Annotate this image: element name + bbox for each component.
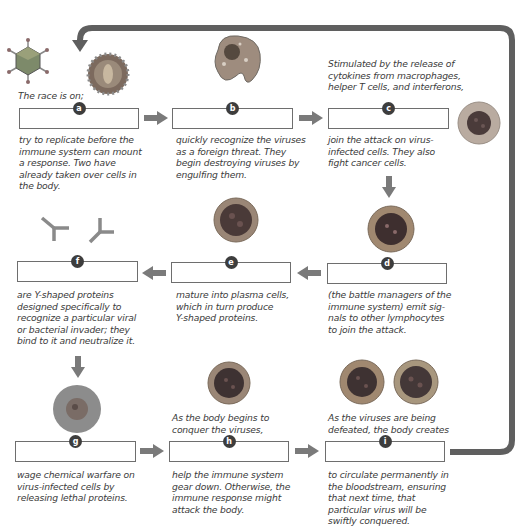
step-i-text-above: As the viruses are beingdefeated, the bo… [328,412,488,435]
memory-cell-icon [338,358,386,406]
arrow-right-icon [140,444,164,458]
suppressor-t-cell-icon [206,360,252,406]
step-g-badge: g [69,435,82,448]
step-e-answer-box[interactable]: e [171,262,291,283]
arrow-right-icon [295,444,319,458]
step-i-answer-box[interactable]: i [325,441,445,462]
memory-cell-icon [392,358,440,406]
step-c-text-above: Stimulated by the release ofcytokines fr… [328,58,488,93]
arrow-left-icon [142,266,166,280]
step-d-answer-box[interactable]: d [327,263,447,284]
step-i-badge: i [379,435,392,448]
step-e-badge: e [225,256,238,269]
step-a-answer-box[interactable]: a [19,108,139,129]
step-c-badge: c [382,102,395,115]
step-e-text-below: mature into plasma cells,which in turn p… [176,289,326,324]
step-d-text-below: (the battle managers of theimmune system… [328,289,488,335]
step-b-badge: b [226,102,239,115]
antibody-icon [88,216,118,246]
step-h-badge: h [223,435,236,448]
virus-icon [6,38,50,84]
arrow-down-icon [382,176,396,198]
arrow-down-icon [71,356,85,378]
step-f-badge: f [71,255,84,268]
step-h-answer-box[interactable]: h [169,441,289,462]
arrow-right-icon [144,111,168,125]
step-a-text-above: The race is on; [18,90,84,102]
step-c-answer-box[interactable]: c [328,108,449,129]
macrophage-icon [208,30,264,86]
step-c-text-below: join the attack on virus-infected cells.… [328,134,478,169]
arrow-right-icon [299,111,323,125]
b-cell-icon [212,196,260,244]
step-a-text-below: try to replicate before theimmune system… [19,134,169,192]
step-f-text-below: are Y-shaped proteinsdesigned specifical… [17,289,167,347]
step-h-text-above: As the body begins toconquer the viruses… [172,412,322,435]
step-h-text-below: help the immune systemgear down. Otherwi… [172,469,332,515]
step-b-text-below: quickly recognize the virusesas a foreig… [176,134,336,180]
helper-t-cell-icon [366,204,416,254]
step-g-answer-box[interactable]: g [15,441,136,462]
step-a-badge: a [73,102,86,115]
step-d-badge: d [381,257,394,270]
step-i-text-below: to circulate permanently inthe bloodstre… [328,469,498,527]
enveloped-virus-icon [82,48,134,100]
step-g-text-below: wage chemical warfare onvirus-infected c… [17,469,167,504]
arrow-left-icon [297,266,321,280]
step-b-answer-box[interactable]: b [172,108,293,129]
antibody-icon [40,212,70,242]
step-f-answer-box[interactable]: f [17,261,138,282]
killer-t-cell-icon [52,384,102,434]
